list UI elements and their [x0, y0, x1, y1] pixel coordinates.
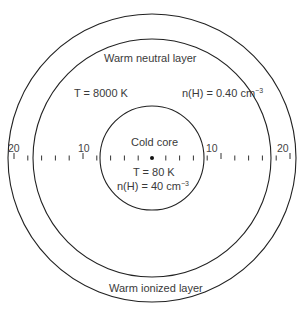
warm-neutral-temperature: T = 8000 K: [74, 88, 128, 99]
warm-neutral-density: n(H) = 0.40 cm−3: [182, 88, 263, 99]
cold-core-density: n(H) = 40 cm−3: [117, 181, 189, 192]
cold-core-density-text: n(H) = 40 cm: [117, 180, 181, 192]
cold-core-density-exponent: −3: [181, 180, 189, 187]
cloud-structure-diagram: [0, 0, 299, 310]
warm-ionized-layer-label: Warm ionized layer: [109, 283, 203, 294]
axis-label-left-10: 10: [78, 143, 90, 154]
warm-neutral-density-text: n(H) = 0.40 cm: [182, 87, 255, 99]
cold-core-label: Cold core: [131, 137, 178, 148]
axis-label-right-10: 10: [206, 143, 218, 154]
center-dot: [150, 156, 154, 160]
axis-label-right-20: 20: [277, 143, 289, 154]
cold-core-temperature: T = 80 K: [133, 167, 175, 178]
warm-neutral-layer-label: Warm neutral layer: [104, 53, 197, 64]
axis-label-left-20: 20: [8, 143, 20, 154]
warm-neutral-density-exponent: −3: [255, 87, 263, 94]
